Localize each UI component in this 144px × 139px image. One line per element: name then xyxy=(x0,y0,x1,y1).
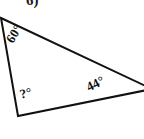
triangle-diagram xyxy=(0,0,144,139)
problem-number: 6) xyxy=(26,0,39,8)
triangle-figure-screenshot: 6) 60° ?° 44° xyxy=(0,0,144,139)
